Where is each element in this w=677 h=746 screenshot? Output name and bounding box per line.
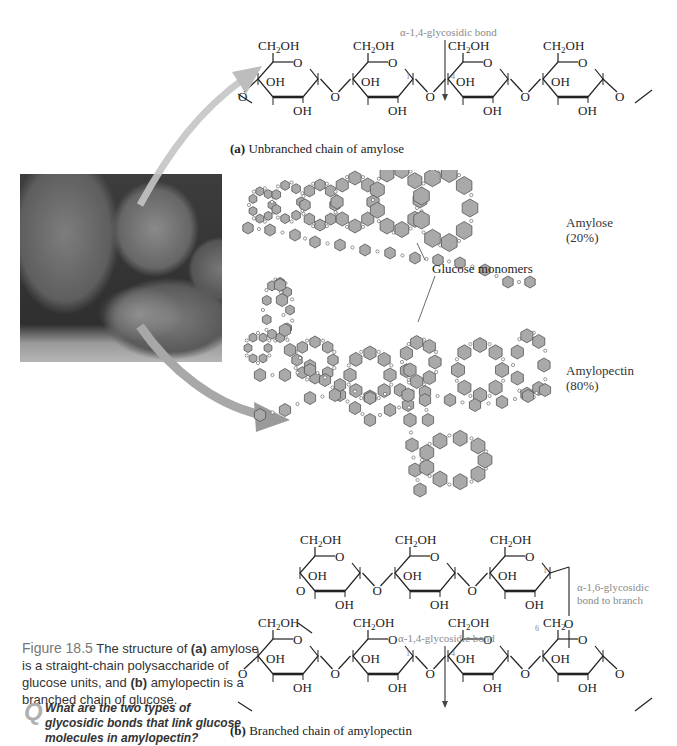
svg-text:OH: OH [361,651,380,666]
svg-text:OH: OH [293,103,312,118]
svg-text:4: 4 [451,649,455,658]
svg-text:OH: OH [361,74,380,89]
svg-text:CH2OH: CH2OH [353,615,394,632]
amylose-percent: (20%) [566,230,613,245]
panel-a-title: Unbranched chain of amylose [245,141,404,156]
panel-b-amylopectin: OOCH2OHOHOHOOCH2OHOHOHOOCH2OHOHOH1OOOCH2… [230,525,677,740]
svg-text:OH: OH [266,74,285,89]
potato-photo [20,174,222,362]
svg-text:O: O [331,89,340,104]
svg-text:6: 6 [535,624,539,633]
svg-text:OH: OH [293,680,312,695]
svg-text:OH: OH [335,597,354,612]
svg-text:O: O [615,89,624,104]
panel-a-marker: (a) [230,141,245,156]
svg-text:CH2OH: CH2OH [448,615,489,632]
svg-text:O: O [296,583,305,598]
svg-text:1: 1 [406,72,410,81]
figure-caption: Figure 18.5 The structure of (a) amylose… [22,640,262,708]
alpha-14-bond-label-b: α-1,4-glycosidic bond [398,632,495,644]
svg-text:O: O [238,89,247,104]
svg-text:O: O [468,583,477,598]
svg-text:OH: OH [498,568,517,583]
svg-text:CH2OH: CH2OH [395,532,436,549]
svg-text:O: O [483,55,492,70]
amylopectin-name: Amylopectin [566,363,634,378]
svg-text:OH: OH [483,680,502,695]
panel-a-amylose: α-1,4-glycosidic bond OOCH2OHOHOHOOCH2OH… [230,0,677,160]
svg-text:O: O [331,666,340,681]
svg-text:O: O [388,55,397,70]
svg-text:O: O [521,89,530,104]
svg-text:O: O [578,55,587,70]
amylopectin-label: Amylopectin (80%) [566,363,634,393]
amylopectin-percent: (80%) [566,378,634,393]
svg-text:CH2OH: CH2OH [448,38,489,55]
caption-b-marker: (b) [130,675,147,690]
svg-text:OH: OH [456,651,475,666]
svg-text:O: O [525,549,534,564]
svg-text:OH: OH [308,568,327,583]
alpha-16-bond-label: α-1,6-glycosidic bond to branch [577,581,649,607]
svg-text:OH: OH [388,680,407,695]
svg-text:CH2OH: CH2OH [490,532,531,549]
svg-text:O: O [373,583,382,598]
amylose-structure: OOCH2OHOHOHOOCH2OHOHOH1OOCH2OHOHOH4OOCH2… [230,0,677,160]
glucose-pointer-2 [418,276,435,322]
alpha-16-line2: bond to branch [577,594,649,607]
amylose-label: Amylose (20%) [566,215,613,245]
svg-text:O: O [521,666,530,681]
svg-text:O: O [430,549,439,564]
panel-b-title: Branched chain of amylopectin [246,723,412,738]
panel-b-label: (b) Branched chain of amylopectin [230,723,412,739]
starch-molecule-illustration [240,170,560,515]
review-question: What are the two types of glycosidic bon… [45,701,245,746]
svg-text:4: 4 [451,72,455,81]
svg-text:OH: OH [483,103,502,118]
svg-text:OH: OH [266,651,285,666]
svg-text:OH: OH [403,568,422,583]
svg-text:O: O [426,89,435,104]
svg-text:OH: OH [456,74,475,89]
svg-text:O: O [335,549,344,564]
alpha-16-line1: α-1,6-glycosidic [577,581,649,594]
svg-text:OH: OH [578,680,597,695]
svg-text:O: O [578,632,587,647]
svg-text:O: O [293,55,302,70]
figure-number: Figure 18.5 [22,640,93,656]
svg-text:1: 1 [406,649,410,658]
amylose-name: Amylose [566,215,613,230]
svg-text:OH: OH [551,651,570,666]
svg-text:CH2OH: CH2OH [258,38,299,55]
caption-a-marker: (a) [191,641,207,656]
svg-text:CH2OH: CH2OH [353,38,394,55]
svg-text:OH: OH [525,597,544,612]
svg-text:CH2OH: CH2OH [258,615,299,632]
caption-intro: The structure of [93,641,191,656]
svg-text:O: O [293,632,302,647]
svg-text:CH2OH: CH2OH [300,532,341,549]
svg-text:CH2OH: CH2OH [543,38,584,55]
svg-text:1: 1 [543,566,547,575]
svg-text:O: O [615,666,624,681]
question-icon: Q [24,698,43,726]
svg-text:OH: OH [578,103,597,118]
svg-text:CH2: CH2 [543,615,566,632]
svg-text:OH: OH [551,74,570,89]
glucose-monomers-label: Glucose monomers [432,261,533,277]
svg-text:OH: OH [388,103,407,118]
svg-text:OH: OH [430,597,449,612]
svg-text:O: O [426,666,435,681]
panel-a-label: (a) Unbranched chain of amylose [230,141,404,157]
svg-text:O: O [388,632,397,647]
